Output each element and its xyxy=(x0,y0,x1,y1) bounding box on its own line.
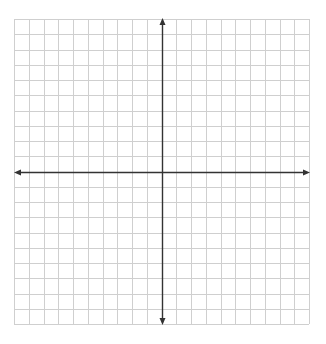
y-axis-down-arrow-icon xyxy=(160,318,166,325)
x-axis-right-arrow-icon xyxy=(303,170,310,176)
coordinate-plane xyxy=(0,0,326,344)
grid xyxy=(14,19,310,325)
x-axis-left-arrow-icon xyxy=(14,170,21,176)
